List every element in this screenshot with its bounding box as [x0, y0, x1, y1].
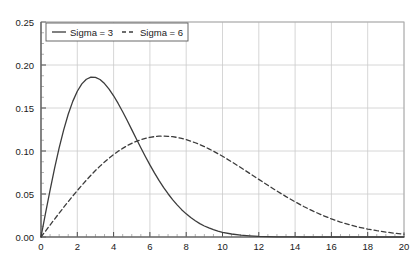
x-tick-label: 20 [399, 241, 410, 252]
chart-figure: 024681012141618200.000.050.100.150.200.2… [0, 0, 417, 266]
x-tick-label: 0 [38, 241, 43, 252]
rayleigh-pdf-chart: 024681012141618200.000.050.100.150.200.2… [0, 0, 417, 266]
x-tick-label: 16 [326, 241, 337, 252]
legend-label-2: Sigma = 6 [140, 27, 183, 38]
x-tick-label: 2 [75, 241, 80, 252]
x-tick-label: 12 [254, 241, 265, 252]
legend-label-1: Sigma = 3 [70, 27, 113, 38]
x-tick-label: 18 [362, 241, 373, 252]
y-tick-label: 0.10 [16, 146, 35, 157]
chart-legend: Sigma = 3Sigma = 6 [46, 23, 188, 41]
x-tick-label: 10 [217, 241, 228, 252]
x-tick-label: 14 [290, 241, 301, 252]
x-tick-label: 6 [147, 241, 152, 252]
y-tick-label: 0.00 [16, 232, 35, 243]
y-tick-label: 0.20 [16, 60, 35, 71]
y-tick-label: 0.05 [16, 189, 35, 200]
x-tick-label: 4 [111, 241, 116, 252]
y-tick-label: 0.25 [16, 17, 35, 28]
x-tick-label: 8 [184, 241, 189, 252]
y-tick-label: 0.15 [16, 103, 35, 114]
